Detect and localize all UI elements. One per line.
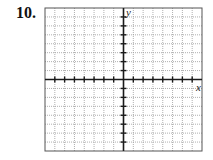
coordinate-grid[interactable]: x y (0, 0, 213, 160)
axes (45, 8, 202, 151)
y-axis-label: y (125, 6, 131, 18)
x-axis-label: x (195, 81, 201, 93)
